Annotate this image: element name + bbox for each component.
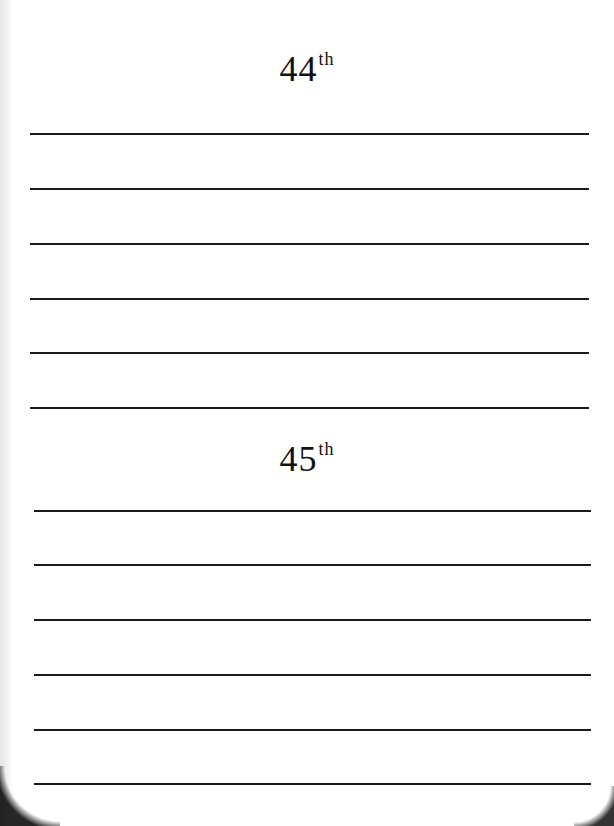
page-corner-shadow-right — [574, 786, 614, 826]
notebook-page: 44th 45th — [0, 0, 614, 826]
writing-line — [30, 133, 589, 135]
page-edge-shadow — [0, 0, 14, 826]
writing-line — [34, 510, 591, 512]
section-heading-45: 45th — [0, 438, 614, 480]
writing-line — [30, 407, 589, 409]
writing-line — [30, 243, 589, 245]
page-corner-shadow-left — [0, 766, 60, 826]
heading-number: 45 — [279, 439, 317, 479]
writing-line — [34, 674, 591, 676]
heading-number: 44 — [279, 49, 317, 89]
writing-line — [34, 729, 591, 731]
writing-line — [34, 783, 591, 785]
writing-line — [34, 564, 591, 566]
writing-line — [30, 352, 589, 354]
writing-line — [30, 188, 589, 190]
heading-suffix: th — [318, 439, 334, 459]
section-heading-44: 44th — [0, 48, 614, 90]
writing-line — [30, 298, 589, 300]
writing-line — [34, 619, 591, 621]
heading-suffix: th — [318, 49, 334, 69]
